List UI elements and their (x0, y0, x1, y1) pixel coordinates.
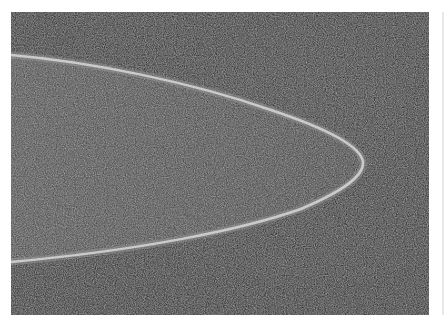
micrograph-svg (11, 12, 429, 315)
micrograph-image (11, 12, 429, 315)
